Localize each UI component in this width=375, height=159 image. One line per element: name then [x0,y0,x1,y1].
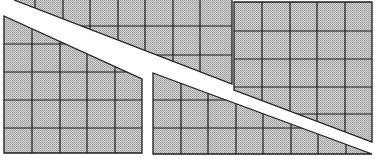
cut-grid-diagram [0,0,375,159]
